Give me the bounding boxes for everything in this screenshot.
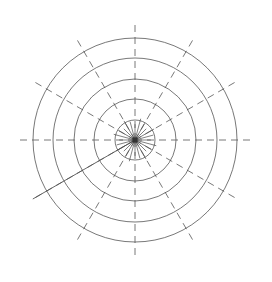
polar-grid-svg <box>0 0 272 282</box>
polar-grid-figure <box>0 0 272 282</box>
center-marker <box>133 138 138 143</box>
center-square-marker <box>133 138 138 143</box>
